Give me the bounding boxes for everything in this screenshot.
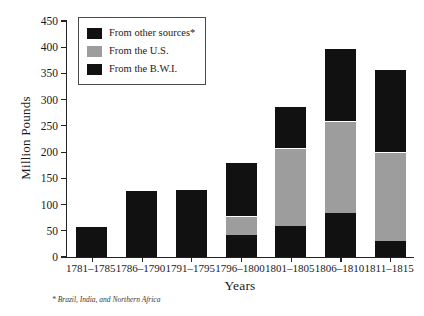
bar-group[interactable] xyxy=(325,48,356,257)
legend-label: From the B.W.I. xyxy=(109,63,177,75)
cotton-imports-stacked-bar-chart: Million Pounds 0501001502002503003504004… xyxy=(0,0,424,316)
x-axis-tick-label: 1796–1800 xyxy=(215,262,265,274)
bar-group[interactable] xyxy=(275,106,306,257)
x-axis-tick-label: 1791–1795 xyxy=(165,262,215,274)
bar-group[interactable] xyxy=(76,227,107,257)
bar-segment-other[interactable] xyxy=(126,190,157,228)
bar-segment-bwi[interactable] xyxy=(76,227,107,257)
legend-swatch xyxy=(87,46,102,57)
bar-group[interactable] xyxy=(126,190,157,257)
bar-segment-bwi[interactable] xyxy=(226,235,257,257)
legend-label: From other sources* xyxy=(109,27,195,39)
bar-segment-other[interactable] xyxy=(275,106,306,148)
legend-item[interactable]: From the B.W.I. xyxy=(87,60,195,78)
y-axis-tick-mark xyxy=(61,99,67,100)
y-axis-tick-label: 200 xyxy=(41,144,58,160)
y-axis-tick-mark xyxy=(61,256,67,257)
y-axis-tick-mark xyxy=(61,20,67,21)
bar-group[interactable] xyxy=(375,69,406,257)
bar-segment-us[interactable] xyxy=(375,152,406,241)
y-axis-tick-label: 450 xyxy=(41,13,58,29)
y-axis-tick-mark xyxy=(61,152,67,153)
legend-item[interactable]: From the U.S. xyxy=(87,42,195,60)
legend-swatch xyxy=(87,28,102,39)
legend-label: From the U.S. xyxy=(109,45,169,57)
y-axis-tick-mark xyxy=(61,178,67,179)
y-axis-tick-label: 0 xyxy=(52,249,58,265)
legend-swatch xyxy=(87,64,102,75)
x-axis-tick-label: 1806–1810 xyxy=(315,262,365,274)
x-axis-tick-label: 1786–1790 xyxy=(116,262,166,274)
chart-legend: From other sources*From the U.S.From the… xyxy=(78,17,206,85)
y-axis-tick-label: 300 xyxy=(41,92,58,108)
bar-group[interactable] xyxy=(226,162,257,257)
bar-segment-bwi[interactable] xyxy=(275,226,306,257)
y-axis-title: Million Pounds xyxy=(18,58,34,218)
y-axis-tick-label: 250 xyxy=(41,118,58,134)
x-axis-tick-label: 1801–1805 xyxy=(265,262,315,274)
bar-group[interactable] xyxy=(176,189,207,257)
bar-segment-other[interactable] xyxy=(176,189,207,228)
y-axis-tick-label: 400 xyxy=(41,39,58,55)
bar-segment-bwi[interactable] xyxy=(176,228,207,257)
bar-segment-bwi[interactable] xyxy=(325,213,356,257)
bar-segment-bwi[interactable] xyxy=(126,228,157,257)
y-axis-tick-mark xyxy=(61,47,67,48)
x-axis-title: Years xyxy=(66,278,414,294)
bar-segment-us[interactable] xyxy=(325,121,356,214)
y-axis-tick-label: 100 xyxy=(41,197,58,213)
bar-segment-other[interactable] xyxy=(325,48,356,121)
y-axis-tick-mark xyxy=(61,230,67,231)
bar-segment-us[interactable] xyxy=(226,216,257,235)
y-axis-tick-label: 350 xyxy=(41,65,58,81)
y-axis-tick-label: 50 xyxy=(47,223,59,239)
bar-segment-us[interactable] xyxy=(275,148,306,225)
legend-item[interactable]: From other sources* xyxy=(87,24,195,42)
y-axis-tick-label: 150 xyxy=(41,170,58,186)
x-axis-tick-label: 1811–1815 xyxy=(364,262,414,274)
bar-segment-other[interactable] xyxy=(375,69,406,152)
chart-footnote: * Brazil, India, and Northern Africa xyxy=(52,295,160,304)
y-axis-tick-mark xyxy=(61,73,67,74)
bar-segment-other[interactable] xyxy=(226,162,257,217)
y-axis-tick-mark xyxy=(61,204,67,205)
bar-segment-bwi[interactable] xyxy=(375,241,406,257)
y-axis-tick-mark xyxy=(61,125,67,126)
x-axis-tick-label: 1781–1785 xyxy=(66,262,116,274)
